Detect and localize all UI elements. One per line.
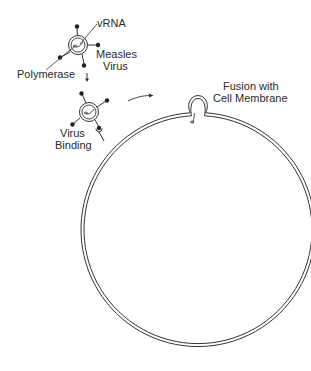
- fusion-label-line2: Cell Membrane: [213, 92, 288, 104]
- measles-label-line2: Virus: [103, 60, 128, 72]
- down-arrow-icon: [85, 73, 89, 82]
- measles-virus-icon: [58, 24, 100, 67]
- measles-label-line1: Measles: [96, 48, 137, 60]
- fusion-label-line1: Fusion with: [223, 80, 279, 92]
- cell-membrane: [81, 113, 311, 347]
- vrna-leader-line: [80, 24, 97, 44]
- receptor-icon: [96, 129, 104, 142]
- vrna-label: vRNA: [97, 17, 126, 29]
- measles-entry-diagram: vRNA Measles Virus Polymerase Virus Bind…: [0, 0, 311, 371]
- polymerase-leader-line: [46, 46, 75, 70]
- binding-label-line1: Virus: [60, 127, 85, 139]
- binding-virus-icon: [70, 91, 109, 130]
- curved-arrow-icon: [128, 94, 154, 102]
- polymerase-label: Polymerase: [17, 68, 75, 80]
- fusion-pocket: [189, 96, 208, 116]
- binding-label-line2: Binding: [55, 139, 92, 151]
